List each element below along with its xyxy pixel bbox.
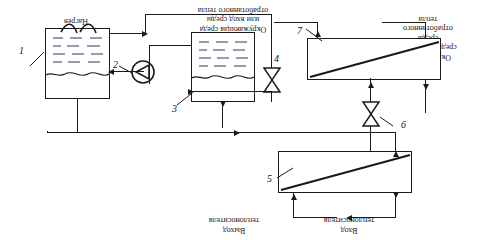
- pipe-hx5-top-left-arrow: [393, 151, 399, 157]
- pipe-hx7-ambient-in-arrow: [315, 31, 321, 37]
- pipe-tank1-outlet-run: [110, 33, 146, 34]
- heat-exchanger-7-body: [307, 38, 441, 80]
- pipe-upper-bus: [145, 14, 272, 15]
- pipe-valve4-lower: [271, 91, 272, 102]
- component-number-5: 5: [267, 174, 272, 184]
- heat-exchanger-5-leader: [269, 162, 295, 182]
- pipe-lower-bus-arrow: [234, 130, 240, 136]
- pipe-tank3-to-tank1-upper: [149, 45, 191, 46]
- figure-canvas: Нагрев Окружающая среда или вход среды о…: [0, 0, 484, 240]
- pipe-valve4-to-tank3: [191, 91, 272, 92]
- heat-exchanger-7-diagonal: [309, 40, 440, 79]
- schematic-scene: Нагрев Окружающая среда или вход среды о…: [0, 0, 484, 240]
- tank-1-bottom-stub: [77, 98, 78, 132]
- component-number-3: 3: [172, 104, 177, 114]
- tank-1-liquid-surface: [45, 68, 110, 80]
- tank-3-liquid-surface: [191, 71, 255, 83]
- tank-1-vapor-lines: [45, 28, 110, 68]
- label-coolant-outlet: Выход теплоносителя: [194, 216, 274, 235]
- component-number-4: 4: [274, 54, 279, 64]
- pipe-hx7-ambient-out-riser: [425, 22, 426, 38]
- tank-1-heater-cap: [45, 18, 110, 34]
- tank-3-vapor-lines: [191, 33, 255, 71]
- pipe-tank3-riser: [149, 45, 150, 84]
- heat-exchanger-5-body: [278, 151, 412, 193]
- component-number-6: 6: [401, 120, 406, 130]
- pipe-valve6-lower: [370, 126, 371, 151]
- pipe-hx5-coolant-out-run: [350, 217, 396, 218]
- pipe-valve4-to-tank3-arrow: [188, 89, 194, 95]
- pipe-pump-to-tank1-arrow: [108, 69, 114, 75]
- pipe-hx5-top-left-run: [238, 132, 396, 133]
- pump-2-symbol: [130, 59, 156, 85]
- pipe-lower-bus-corner: [47, 131, 48, 133]
- component-number-7: 7: [297, 26, 302, 36]
- pipe-hx7-ambient-in-run: [274, 22, 318, 23]
- pipe-hx5-coolant-out-uparrow: [393, 192, 399, 198]
- pipe-hx5-top-left-riser: [395, 132, 396, 151]
- tank-3-feed-arrow: [220, 101, 226, 107]
- pipe-hx5-coolant-in-arrow: [291, 194, 297, 200]
- pipe-lower-bus: [47, 132, 239, 133]
- pipe-hx5-coolant-in-run: [293, 217, 337, 218]
- valve-6-leader: [378, 112, 396, 128]
- pipe-pump-to-tank1: [110, 71, 144, 72]
- pipe-valve6-upper-arrow: [368, 82, 374, 88]
- valve-4-symbol[interactable]: [262, 67, 282, 93]
- pipe-tank1-outlet-riser: [145, 14, 146, 34]
- heat-exchanger-5-diagonal: [280, 153, 411, 192]
- pipe-hx7-left-arrow: [423, 84, 429, 90]
- pipe-upper-bus-down-to-valve4: [271, 14, 272, 68]
- pipe-hx7-ambient-out-run: [382, 22, 426, 23]
- pipe-hx5-coolant-out-arrow: [346, 215, 352, 221]
- component-number-1: 1: [19, 46, 24, 56]
